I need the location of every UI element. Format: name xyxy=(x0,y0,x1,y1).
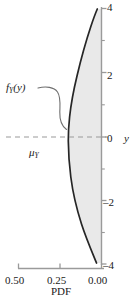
plot-canvas xyxy=(0,0,138,296)
y-tick-label-0: 0 xyxy=(107,133,113,144)
y-tick-label-4: 4 xyxy=(107,2,113,13)
y-axis-major-ticks xyxy=(102,9,107,265)
x-tick-label-000: 0.00 xyxy=(88,275,107,286)
pdf-curve-label: fY(y) xyxy=(6,82,25,94)
pdf-label-leader-line xyxy=(38,87,67,129)
x-tick-label-050: 0.50 xyxy=(5,275,24,286)
y-tick-label-2: 2 xyxy=(107,70,113,81)
y-tick-label-minus-2: –2 xyxy=(103,197,114,208)
pdf-label-argument: (y) xyxy=(13,81,25,93)
pdf-figure: 4 2 0 –2 –4 y 0.50 0.25 0.00 PDF fY(y) μ… xyxy=(0,0,138,296)
y-tick-label-minus-4: –4 xyxy=(103,260,114,271)
x-axis-title: PDF xyxy=(51,286,71,296)
mean-label-subscript: Y xyxy=(35,151,39,160)
x-axis-ticks xyxy=(19,264,102,269)
y-axis-title: y xyxy=(124,133,129,144)
mean-label: μY xyxy=(29,147,39,159)
